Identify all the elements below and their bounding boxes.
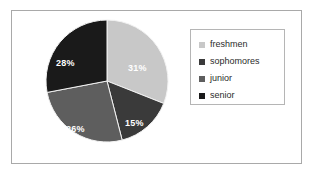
legend-item-senior[interactable]: senior [199, 87, 284, 104]
legend-label: freshmen [210, 40, 248, 49]
legend-swatch-icon [199, 42, 205, 48]
legend-label: sophomores [210, 57, 260, 66]
pie-chart[interactable] [45, 19, 169, 143]
legend-swatch-icon [199, 93, 205, 99]
pie-slice-group [46, 20, 168, 142]
slice-label-sophomores: 15% [125, 118, 144, 128]
pie-slice-senior[interactable] [46, 20, 107, 92]
legend-label: junior [210, 74, 232, 83]
slice-label-senior: 28% [56, 58, 75, 68]
legend-item-sophomores[interactable]: sophomores [199, 53, 284, 70]
chart-frame: 31% 15% 26% 28% freshmen sophomores juni… [11, 10, 302, 164]
legend-swatch-icon [199, 59, 205, 65]
slice-label-freshmen: 31% [128, 63, 147, 73]
chart-legend: freshmen sophomores junior senior [190, 29, 285, 105]
plot-area: 31% 15% 26% 28% freshmen sophomores juni… [12, 11, 303, 165]
slice-label-junior: 26% [66, 124, 85, 134]
legend-item-freshmen[interactable]: freshmen [199, 36, 284, 53]
legend-swatch-icon [199, 76, 205, 82]
legend-item-junior[interactable]: junior [199, 70, 284, 87]
legend-label: senior [210, 91, 235, 100]
